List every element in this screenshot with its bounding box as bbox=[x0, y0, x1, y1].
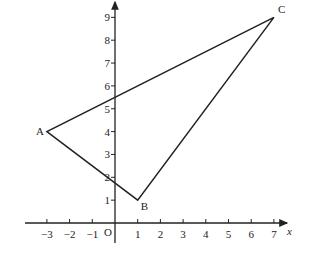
origin-label: O bbox=[104, 226, 112, 238]
vertex-label-c: C bbox=[278, 3, 285, 15]
triangle-abc bbox=[47, 17, 274, 200]
x-axis-label: x bbox=[286, 225, 292, 237]
x-tick-label: 3 bbox=[180, 228, 186, 240]
y-tick-label: 5 bbox=[105, 103, 111, 115]
y-tick-label: 4 bbox=[105, 126, 111, 138]
y-tick-label: 9 bbox=[105, 11, 111, 23]
vertex-label-b: B bbox=[141, 200, 148, 212]
x-tick-label: −3 bbox=[41, 228, 53, 240]
x-tick-label: 4 bbox=[203, 228, 209, 240]
axis-labels: −3−2−11234567123456789 bbox=[41, 11, 277, 240]
x-tick-label: 5 bbox=[226, 228, 232, 240]
coordinate-diagram: −3−2−11234567123456789 ABC x O bbox=[0, 0, 310, 261]
vertex-labels: ABC bbox=[36, 3, 285, 212]
y-tick-label: 8 bbox=[105, 34, 111, 46]
x-tick-label: 7 bbox=[271, 228, 277, 240]
x-tick-label: −1 bbox=[86, 228, 98, 240]
y-tick-label: 7 bbox=[105, 57, 111, 69]
plot-area: −3−2−11234567123456789 ABC x O bbox=[0, 0, 310, 261]
y-tick-label: 1 bbox=[105, 194, 111, 206]
x-tick-label: 2 bbox=[158, 228, 164, 240]
y-tick-label: 3 bbox=[105, 148, 111, 160]
axis-ticks bbox=[47, 17, 274, 223]
vertex-label-a: A bbox=[36, 125, 44, 137]
x-tick-label: −2 bbox=[64, 228, 76, 240]
x-tick-label: 6 bbox=[248, 228, 254, 240]
y-tick-label: 6 bbox=[105, 80, 111, 92]
x-tick-label: 1 bbox=[135, 228, 141, 240]
